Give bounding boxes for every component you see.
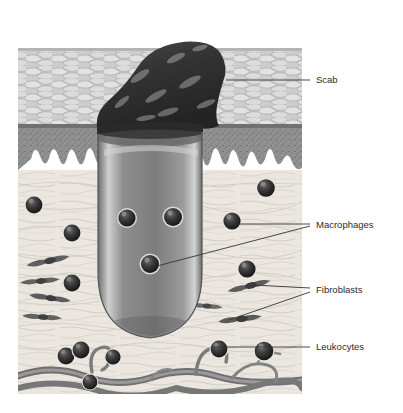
label-scab: Scab xyxy=(316,74,338,85)
cell xyxy=(104,348,121,365)
cell xyxy=(72,341,91,360)
label-leukocytes: Leukocytes xyxy=(316,341,364,352)
cell xyxy=(82,374,99,391)
cell xyxy=(140,254,161,275)
cell xyxy=(237,259,257,279)
illustration-canvas: Scab Macrophages Fibroblasts Leukocytes xyxy=(0,0,403,413)
cell xyxy=(256,178,276,198)
cell xyxy=(63,224,82,243)
cell xyxy=(117,208,137,228)
cell xyxy=(163,207,184,228)
cell xyxy=(25,196,44,215)
cell xyxy=(63,274,82,293)
cell xyxy=(254,341,275,362)
label-fibroblasts: Fibroblasts xyxy=(316,284,363,295)
wound-healing-figure: Scab Macrophages Fibroblasts Leukocytes xyxy=(0,0,403,413)
cell xyxy=(222,211,242,231)
wound-plug xyxy=(92,121,208,344)
cell xyxy=(210,340,229,359)
label-macrophages: Macrophages xyxy=(316,219,374,230)
